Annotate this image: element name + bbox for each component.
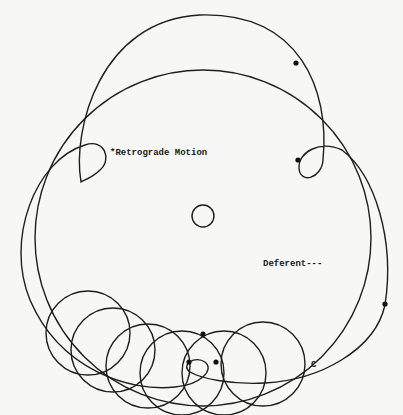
c-point-label: C <box>311 361 316 370</box>
planet-dot <box>382 301 387 306</box>
epicycle <box>221 322 305 406</box>
planet-dot <box>293 60 298 65</box>
deferent-label: Deferent--- <box>263 260 322 269</box>
planet-dot <box>213 359 218 364</box>
planet-dot <box>295 157 300 162</box>
epicycle-diagram <box>0 0 403 415</box>
earth-circle <box>192 205 214 227</box>
retrograde-motion-label: *Retrograde Motion <box>110 149 207 158</box>
deferent-circle <box>35 70 371 406</box>
planet-dot <box>200 331 205 336</box>
planet-dot <box>186 359 191 364</box>
epicycle <box>46 291 130 375</box>
epicycle <box>106 324 190 408</box>
